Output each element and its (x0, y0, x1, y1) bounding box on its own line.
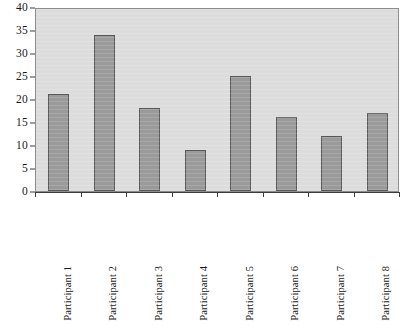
y-tick-mark (30, 54, 35, 55)
x-axis: Participant 1Participant 2Participant 3P… (35, 200, 399, 270)
x-tick-mark (81, 192, 82, 197)
x-tick-mark (308, 192, 309, 197)
plot-area (35, 8, 399, 192)
y-tick-label: 15 (0, 117, 28, 129)
y-tick-label: 40 (0, 2, 28, 14)
y-tick-mark (30, 146, 35, 147)
x-tick-mark (354, 192, 355, 197)
y-tick-label: 5 (0, 163, 28, 175)
y-tick-label: 0 (0, 186, 28, 198)
plot-bars-container (36, 9, 398, 191)
bar (321, 136, 342, 191)
x-tick-mark (172, 192, 173, 197)
y-tick-label: 20 (0, 94, 28, 106)
y-tick-label: 25 (0, 71, 28, 83)
x-tick-mark (126, 192, 127, 197)
y-tick-label: 35 (0, 25, 28, 37)
x-tick-mark (263, 192, 264, 197)
x-tick-mark (217, 192, 218, 197)
x-tick-label: Participant 1 (63, 266, 74, 325)
y-tick-mark (30, 77, 35, 78)
x-tick-label: Participant 4 (199, 266, 210, 325)
bar (230, 76, 251, 191)
x-tick-label: Participant 3 (154, 266, 165, 325)
y-tick-mark (30, 169, 35, 170)
y-tick-mark (30, 31, 35, 32)
y-tick-mark (30, 100, 35, 101)
bar (185, 150, 206, 191)
x-tick-mark (35, 192, 36, 197)
bar (276, 117, 297, 191)
bar (139, 108, 160, 191)
x-tick-label: Participant 6 (290, 266, 301, 325)
bar (48, 94, 69, 191)
x-tick-mark (399, 192, 400, 197)
y-tick-label: 30 (0, 48, 28, 60)
bar (367, 113, 388, 191)
y-axis: 0510152025303540 (0, 0, 28, 200)
x-tick-label: Participant 5 (245, 266, 256, 325)
y-tick-mark (30, 8, 35, 9)
x-tick-label: Participant 8 (381, 266, 392, 325)
x-tick-label: Participant 2 (108, 266, 119, 325)
bar (94, 35, 115, 191)
x-tick-label: Participant 7 (336, 266, 347, 325)
y-tick-mark (30, 123, 35, 124)
y-tick-label: 10 (0, 140, 28, 152)
